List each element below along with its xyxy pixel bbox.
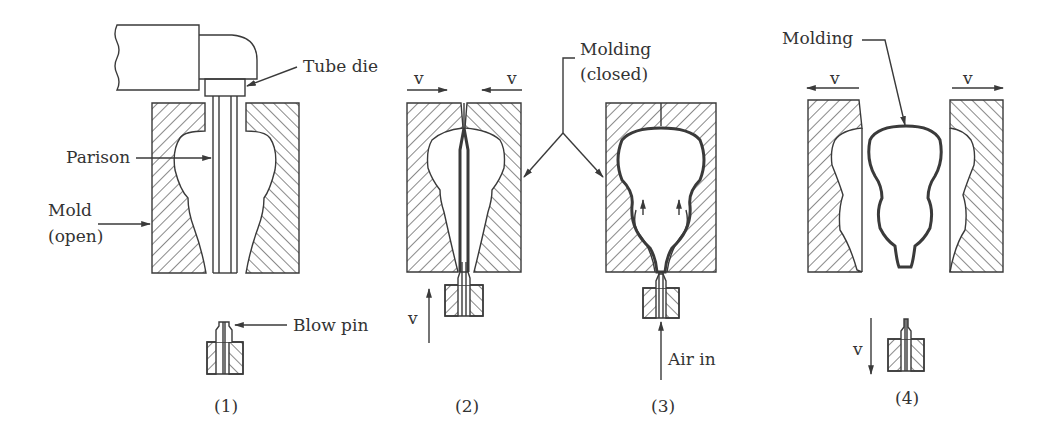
label-velocity-left-4: v: [829, 68, 840, 88]
label-velocity-left: v: [413, 68, 424, 88]
label-velocity-right: v: [506, 68, 517, 88]
mold-left-half: [152, 103, 206, 273]
molded-part: [869, 126, 941, 267]
step-1-open-mold: Tube die Parison Mold (open) Blow pin (1…: [48, 25, 378, 416]
mold-left-closed: [407, 103, 463, 272]
label-velocity-right-4: v: [962, 68, 973, 88]
caption-step-2: (2): [455, 396, 479, 416]
parison: [213, 96, 237, 273]
label-velocity-up: v: [407, 308, 418, 328]
mold-right-half: [246, 103, 299, 273]
caption-step-4: (4): [895, 388, 919, 408]
step-3-blowing: Air in (3): [606, 103, 716, 416]
label-molding-closed: Molding: [580, 39, 651, 59]
extruder-head: [199, 35, 257, 79]
label-air-in: Air in: [667, 349, 716, 369]
mold-right-open-4: [950, 100, 1003, 272]
label-blow-pin: Blow pin: [293, 315, 368, 335]
label-tube-die: Tube die: [303, 56, 378, 76]
step-4-ejection: Molding v v v (4): [782, 28, 1003, 408]
blow-pin: [207, 322, 243, 374]
label-velocity-down: v: [852, 339, 863, 359]
label-mold-open: (open): [48, 226, 103, 246]
mold-right-closed: [465, 103, 521, 272]
tube-die: [205, 79, 245, 96]
caption-step-3: (3): [651, 396, 675, 416]
label-mold: Mold: [48, 200, 92, 220]
blow-pin-4: [888, 319, 924, 371]
caption-step-1: (1): [214, 396, 238, 416]
label-molding-closed-2: (closed): [580, 64, 648, 84]
blow-molding-diagram: Tube die Parison Mold (open) Blow pin (1…: [0, 0, 1045, 436]
mold-left-open-4: [808, 100, 862, 272]
label-parison: Parison: [66, 147, 130, 167]
label-molding: Molding: [782, 28, 853, 48]
blow-pin-3: [643, 272, 679, 318]
step-2-mold-closing: v v v (2): [407, 68, 522, 416]
extruder-body: [115, 25, 199, 90]
